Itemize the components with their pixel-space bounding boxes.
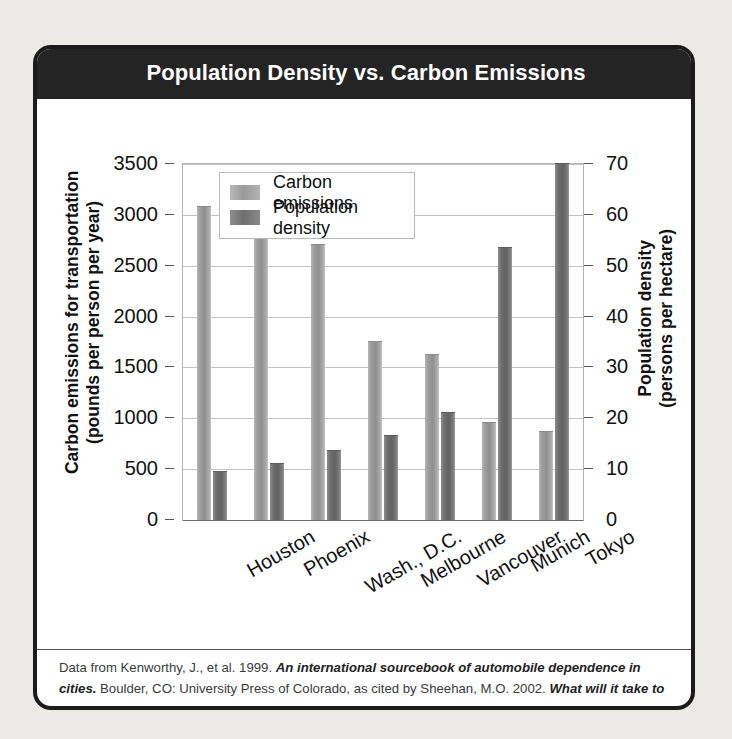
bar-population-density (555, 163, 569, 520)
bar-carbon-emissions (197, 206, 211, 520)
bar-carbon-emissions (311, 244, 325, 520)
bar-carbon-emissions (368, 341, 382, 520)
left-tick-label: 0 (147, 509, 158, 529)
right-tick-mark (584, 417, 593, 418)
gridline (183, 469, 583, 470)
left-axis-title: Carbon emissions for transportation(poun… (62, 127, 105, 517)
bar-population-density (327, 450, 341, 520)
right-tick-label: 60 (606, 204, 628, 224)
figure-card: Population Density vs. Carbon Emissions … (33, 45, 695, 710)
legend-swatch-carbon-emissions (230, 185, 260, 200)
x-axis-category-labels: HoustonPhoenixWash., D.C.MelbourneVancou… (182, 521, 602, 631)
gridline (183, 367, 583, 368)
bar-population-density (498, 247, 512, 520)
legend-item-population-density: Population density (230, 205, 406, 230)
left-tick-mark (165, 265, 174, 266)
right-tick-mark (584, 468, 593, 469)
gridline (183, 266, 583, 267)
left-tick-mark (165, 366, 174, 367)
bar-carbon-emissions (254, 233, 268, 520)
right-tick-mark (584, 366, 593, 367)
gridline (183, 164, 583, 165)
right-tick-label: 0 (606, 509, 617, 529)
left-axis-tick-labels: 0500100015002000250030003500 (112, 163, 174, 519)
bar-population-density (441, 412, 455, 520)
right-tick-label: 70 (606, 153, 628, 173)
x-axis-label: Tokyo (582, 525, 639, 571)
right-tick-label: 20 (606, 407, 628, 427)
right-tick-mark (584, 214, 593, 215)
bar-population-density (270, 463, 284, 520)
bar-carbon-emissions (482, 422, 496, 520)
left-tick-mark (165, 214, 174, 215)
bar-carbon-emissions (425, 354, 439, 520)
chart-legend: Carbon emissions Population density (219, 172, 415, 239)
legend-label-population-density: Population density (273, 197, 406, 239)
left-tick-label: 3500 (114, 153, 159, 173)
caption-segment: Boulder, CO: University Press of Colorad… (96, 681, 549, 696)
left-tick-mark (165, 417, 174, 418)
left-tick-label: 2500 (114, 255, 159, 275)
bar-population-density (384, 435, 398, 520)
left-tick-label: 1500 (114, 356, 159, 376)
left-tick-label: 500 (125, 458, 158, 478)
plot-area: Carbon emissions Population density (182, 163, 584, 521)
left-tick-mark (165, 519, 174, 520)
left-tick-mark (165, 316, 174, 317)
right-tick-mark (584, 265, 593, 266)
right-tick-label: 40 (606, 306, 628, 326)
right-tick-label: 50 (606, 255, 628, 275)
gridline (183, 418, 583, 419)
right-axis-tick-labels: 010203040506070 (584, 163, 646, 519)
source-caption: Data from Kenworthy, J., et al. 1999. An… (59, 657, 669, 710)
caption-divider (37, 649, 691, 650)
gridline (183, 317, 583, 318)
right-tick-label: 10 (606, 458, 628, 478)
page-title: Population Density vs. Carbon Emissions (146, 60, 585, 86)
right-tick-mark (584, 163, 593, 164)
chart-title-band: Population Density vs. Carbon Emissions (35, 47, 695, 99)
left-tick-mark (165, 163, 174, 164)
bar-carbon-emissions (539, 431, 553, 520)
caption-segment: Washington DC: Worldwatch Institute. (136, 703, 361, 710)
right-tick-label: 30 (606, 356, 628, 376)
chart-region: Carbon emissions for transportation(poun… (37, 101, 691, 651)
left-tick-mark (165, 468, 174, 469)
left-tick-label: 1000 (114, 407, 159, 427)
bar-population-density (213, 471, 227, 520)
left-tick-label: 2000 (114, 306, 159, 326)
legend-swatch-population-density (230, 210, 260, 225)
right-tick-mark (584, 316, 593, 317)
caption-segment: Data from Kenworthy, J., et al. 1999. (59, 660, 276, 675)
left-tick-label: 3000 (114, 204, 159, 224)
